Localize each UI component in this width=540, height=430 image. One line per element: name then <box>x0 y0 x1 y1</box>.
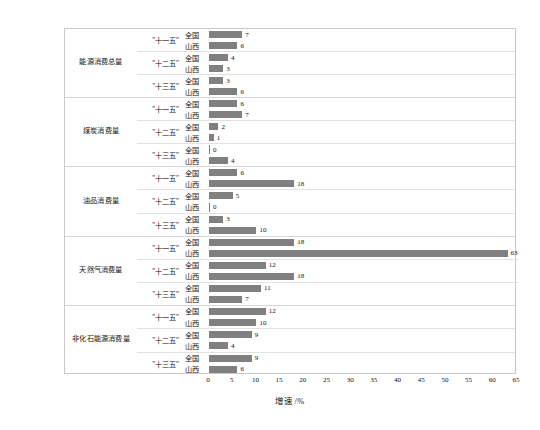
bar-track: 3 <box>209 214 515 225</box>
period-block: "十一五"全国6山西18 <box>137 167 515 190</box>
region-label: 全国 <box>183 191 209 201</box>
bar-row: 山西10 <box>183 317 515 328</box>
x-axis-title: 增速 /% <box>64 394 516 406</box>
bar-track: 7 <box>209 294 518 305</box>
bar-row: 山西7 <box>183 294 518 305</box>
bar-track: 0 <box>209 144 515 155</box>
region-rows: 全国12山西18 <box>183 260 518 282</box>
bar-track: 18 <box>209 237 518 248</box>
bar-track: 4 <box>209 52 515 63</box>
region-label: 山西 <box>183 271 209 281</box>
bar-value-label: 18 <box>297 238 304 246</box>
bar-value-label: 3 <box>226 215 230 223</box>
region-rows: 全国6山西18 <box>183 167 515 189</box>
region-label: 山西 <box>183 225 209 235</box>
period-block: "十三五"全国3山西10 <box>137 214 515 236</box>
bar-value-label: 11 <box>264 284 271 292</box>
period-label: "十三五" <box>137 144 183 166</box>
bar-value-label: 18 <box>297 272 304 280</box>
region-label: 全国 <box>183 237 209 247</box>
bar-track: 10 <box>209 225 515 236</box>
bar-row: 全国18 <box>183 237 518 248</box>
bar-row: 山西10 <box>183 225 515 236</box>
category-group: 天然气消费量"十一五"全国18山西63"十二五"全国12山西18"十三五"全国1… <box>65 237 515 306</box>
bar <box>209 100 237 107</box>
bar-row: 山西63 <box>183 248 518 259</box>
period-label: "十三五" <box>137 283 183 305</box>
bar-track: 6 <box>209 40 515 51</box>
bar-row: 山西1 <box>183 132 515 143</box>
bar <box>209 239 294 246</box>
region-label: 山西 <box>183 179 209 189</box>
period-block: "十三五"全国9山西6 <box>137 353 515 375</box>
period-list: "十一五"全国18山西63"十二五"全国12山西18"十三五"全国11山西7 <box>137 237 518 305</box>
x-tick-label: 0 <box>206 376 210 384</box>
period-label: "十三五" <box>137 353 183 375</box>
region-label: 全国 <box>183 283 209 293</box>
bar-value-label: 6 <box>240 169 244 177</box>
bar-track: 3 <box>209 75 515 86</box>
period-label: "十三五" <box>137 75 183 97</box>
bar <box>209 111 242 118</box>
region-rows: 全国0山西4 <box>183 144 515 166</box>
bar-value-label: 18 <box>297 180 304 188</box>
period-block: "十二五"全国2山西1 <box>137 121 515 144</box>
period-label: "十一五" <box>137 306 183 328</box>
period-block: "十一五"全国18山西63 <box>137 237 518 260</box>
region-rows: 全国4山西3 <box>183 52 515 74</box>
bar-row: 山西0 <box>183 201 515 212</box>
bar <box>209 31 242 38</box>
bar-row: 山西6 <box>183 40 515 51</box>
region-label: 山西 <box>183 156 209 166</box>
bar-value-label: 6 <box>240 42 244 50</box>
region-label: 山西 <box>183 110 209 120</box>
bar-row: 山西18 <box>183 271 518 282</box>
bar-row: 全国5 <box>183 190 515 201</box>
bar <box>209 180 294 187</box>
period-label: "十二五" <box>137 260 183 282</box>
x-tick-label: 35 <box>370 376 377 384</box>
x-tick-label: 5 <box>230 376 234 384</box>
region-label: 山西 <box>183 248 209 258</box>
bar <box>209 308 266 315</box>
period-block: "十二五"全国4山西3 <box>137 52 515 75</box>
bar-row: 全国6 <box>183 98 515 109</box>
period-block: "十一五"全国12山西10 <box>137 306 515 329</box>
region-rows: 全国18山西63 <box>183 237 518 259</box>
bar <box>209 203 210 212</box>
region-label: 山西 <box>183 64 209 74</box>
period-label: "十一五" <box>137 98 183 120</box>
bar <box>209 342 228 349</box>
bar <box>209 77 223 84</box>
bar-value-label: 10 <box>259 226 266 234</box>
region-rows: 全国5山西0 <box>183 190 515 212</box>
bar-row: 全国12 <box>183 260 518 271</box>
region-label: 全国 <box>183 306 209 316</box>
region-label: 全国 <box>183 76 209 86</box>
bar-value-label: 63 <box>511 249 518 257</box>
bar-track: 1 <box>209 132 515 143</box>
region-label: 全国 <box>183 145 209 155</box>
bar-track: 18 <box>209 178 515 189</box>
period-label: "十三五" <box>137 214 183 236</box>
bar-track: 9 <box>209 329 515 340</box>
bar-track: 12 <box>209 306 515 317</box>
x-tick-label: 60 <box>489 376 496 384</box>
bar <box>209 88 237 95</box>
bar <box>209 227 256 234</box>
bar-value-label: 0 <box>213 203 217 211</box>
bar-row: 全国3 <box>183 214 515 225</box>
x-axis: 05101520253035404550556065 <box>64 374 516 390</box>
bar-value-label: 7 <box>245 31 249 39</box>
period-label: "十二五" <box>137 121 183 143</box>
region-label: 山西 <box>183 133 209 143</box>
region-label: 全国 <box>183 168 209 178</box>
period-label: "十一五" <box>137 29 183 51</box>
bar-value-label: 4 <box>231 342 235 350</box>
bar-row: 全国4 <box>183 52 515 63</box>
region-rows: 全国9山西6 <box>183 353 515 375</box>
x-tick-label: 15 <box>276 376 283 384</box>
bar-row: 山西3 <box>183 63 515 74</box>
period-list: "十一五"全国6山西18"十二五"全国5山西0"十三五"全国3山西10 <box>137 167 515 235</box>
x-tick-label: 20 <box>299 376 306 384</box>
